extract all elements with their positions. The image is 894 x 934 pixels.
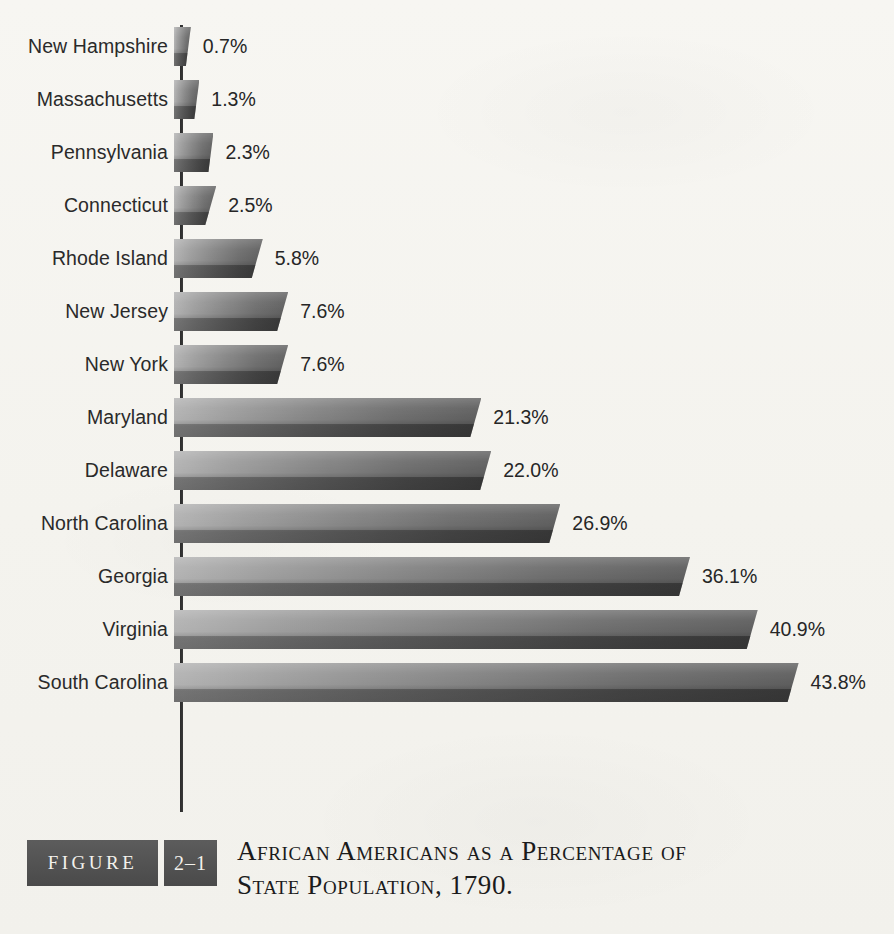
bar-value-label: 36.1%	[702, 550, 757, 603]
bar	[174, 663, 799, 702]
bar-category-label: Georgia	[98, 550, 168, 603]
bar-category-label: South Carolina	[38, 656, 168, 709]
bar	[174, 27, 191, 66]
figure-word-badge: FIGURE	[27, 840, 158, 886]
bar-value-label: 7.6%	[300, 285, 344, 338]
bar-value-label: 22.0%	[503, 444, 558, 497]
bar-fill	[174, 27, 191, 66]
bar-chart: New Hampshire0.7%Massachusetts1.3%Pennsy…	[0, 0, 894, 820]
bar-value-label: 43.8%	[811, 656, 866, 709]
bar	[174, 186, 216, 225]
bar-fill	[174, 610, 758, 649]
bar-value-label: 1.3%	[211, 73, 255, 126]
bar-value-label: 5.8%	[275, 232, 319, 285]
bar-row: Massachusetts1.3%	[0, 73, 894, 126]
bar	[174, 239, 263, 278]
bar-value-label: 26.9%	[572, 497, 627, 550]
bar-fill	[174, 133, 213, 172]
bar-category-label: New Jersey	[65, 285, 168, 338]
bar-row: Delaware22.0%	[0, 444, 894, 497]
bar-category-label: Virginia	[103, 603, 168, 656]
bar-fill	[174, 186, 216, 225]
bar-value-label: 2.3%	[225, 126, 269, 179]
bar-category-label: Pennsylvania	[51, 126, 168, 179]
bar-fill	[174, 451, 491, 490]
bar-category-label: New York	[85, 338, 168, 391]
bar-value-label: 0.7%	[203, 20, 247, 73]
bar-row: Georgia36.1%	[0, 550, 894, 603]
bar-row: New Jersey7.6%	[0, 285, 894, 338]
bar-row: North Carolina26.9%	[0, 497, 894, 550]
bar-value-label: 2.5%	[228, 179, 272, 232]
bar	[174, 610, 758, 649]
figure-caption: FIGURE 2–1 African Americans as a Percen…	[0, 826, 894, 934]
bar-category-label: Rhode Island	[52, 232, 168, 285]
bar	[174, 504, 560, 543]
bar	[174, 451, 491, 490]
bar-row: New York7.6%	[0, 338, 894, 391]
bar-fill	[174, 292, 288, 331]
bar	[174, 398, 481, 437]
bar	[174, 557, 690, 596]
bar-row: Virginia40.9%	[0, 603, 894, 656]
bar-fill	[174, 557, 690, 596]
bar-category-label: Connecticut	[64, 179, 168, 232]
bar	[174, 133, 213, 172]
bar	[174, 80, 199, 119]
bar-fill	[174, 504, 560, 543]
figure-title-line-2: State Population, 1790.	[237, 868, 877, 902]
bar-row: Pennsylvania2.3%	[0, 126, 894, 179]
bar	[174, 292, 288, 331]
bar-value-label: 21.3%	[493, 391, 548, 444]
bar-row: Connecticut2.5%	[0, 179, 894, 232]
bar-fill	[174, 398, 481, 437]
bar	[174, 345, 288, 384]
bar-fill	[174, 345, 288, 384]
bar-row: New Hampshire0.7%	[0, 20, 894, 73]
figure-title-line-1: African Americans as a Percentage of	[237, 834, 877, 868]
bar-fill	[174, 663, 799, 702]
bar-fill	[174, 239, 263, 278]
bar-row: South Carolina43.8%	[0, 656, 894, 709]
figure-title: African Americans as a Percentage of Sta…	[237, 834, 877, 902]
bar-row: Rhode Island5.8%	[0, 232, 894, 285]
bar-category-label: Maryland	[87, 391, 168, 444]
bar-category-label: Delaware	[85, 444, 168, 497]
figure-number-badge: 2–1	[164, 840, 217, 886]
bar-fill	[174, 80, 199, 119]
bar-row: Maryland21.3%	[0, 391, 894, 444]
bar-category-label: North Carolina	[41, 497, 168, 550]
bar-category-label: Massachusetts	[37, 73, 168, 126]
bar-category-label: New Hampshire	[28, 20, 168, 73]
bar-value-label: 7.6%	[300, 338, 344, 391]
bar-value-label: 40.9%	[770, 603, 825, 656]
